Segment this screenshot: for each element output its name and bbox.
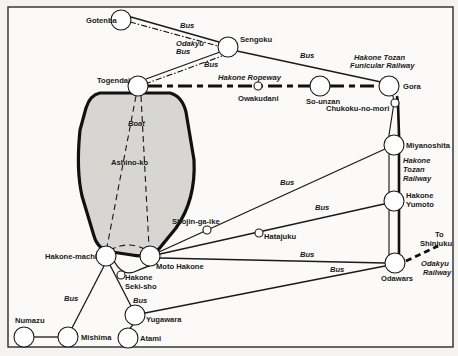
label-hakone-ropeway: Hakone Ropeway bbox=[218, 73, 282, 82]
station-miyanoshita[interactable] bbox=[384, 135, 404, 155]
station-shojin-ga-ike[interactable] bbox=[203, 226, 211, 234]
label-moto-hakone: Moto Hakone bbox=[156, 262, 204, 271]
label-odakyu-railway: OdakyuRailway bbox=[421, 259, 452, 277]
label-boat: Boat bbox=[128, 119, 145, 128]
station-hakone-seki-sho[interactable] bbox=[117, 271, 125, 279]
label-gora: Gora bbox=[403, 82, 422, 91]
station-mishima[interactable] bbox=[58, 327, 78, 347]
station-gora[interactable] bbox=[379, 76, 399, 96]
label-bus-miyanoshita: Bus bbox=[280, 178, 294, 187]
label-miyanoshita: Miyanoshita bbox=[406, 141, 451, 150]
station-togendai[interactable] bbox=[128, 76, 148, 96]
station-odawara[interactable] bbox=[385, 253, 405, 273]
label-bus-odawara-moto: Bus bbox=[300, 250, 314, 259]
hakone-transport-map: Gotenba Sengoku Togendai Owakudani So-un… bbox=[0, 0, 458, 356]
station-hakone-machi[interactable] bbox=[96, 246, 116, 266]
label-chukoku-no-mori: Chukoku-no-mori bbox=[326, 104, 389, 113]
label-shojin-ga-ike: Shojin-ga-ike bbox=[172, 217, 220, 226]
station-numazu[interactable] bbox=[14, 327, 34, 347]
label-atami: Atami bbox=[140, 334, 161, 343]
station-chukoku-no-mori[interactable] bbox=[391, 99, 399, 107]
station-hakone-yumoto[interactable] bbox=[384, 191, 404, 211]
station-atami[interactable] bbox=[118, 328, 138, 348]
label-bus-mishima: Bus bbox=[64, 294, 78, 303]
label-sengoku: Sengoku bbox=[240, 35, 272, 44]
label-bus-sengoku-gora: Bus bbox=[300, 51, 314, 60]
label-owakudani: Owakudani bbox=[238, 94, 279, 103]
station-owakudani[interactable] bbox=[254, 82, 262, 90]
label-hakone-yumoto: HakoneYumoto bbox=[406, 191, 434, 209]
label-bus-yumoto: Bus bbox=[315, 203, 329, 212]
station-yugawara[interactable] bbox=[125, 305, 145, 325]
label-mishima: Mishima bbox=[81, 333, 112, 342]
label-bus-togendai-sengoku: Bus bbox=[204, 60, 218, 69]
station-sengoku[interactable] bbox=[218, 37, 238, 57]
label-gotenba: Gotenba bbox=[86, 16, 118, 25]
label-hakone-seki-sho: HakoneSeki-sho bbox=[125, 273, 157, 291]
label-togendai: Togendai bbox=[97, 76, 130, 85]
label-numazu: Numazu bbox=[15, 316, 45, 325]
label-yugawara: Yugawara bbox=[146, 315, 182, 324]
label-bus-yugawara: Bus bbox=[133, 296, 147, 305]
station-hatajuku[interactable] bbox=[255, 229, 263, 237]
label-hatajuku: Hatajuku bbox=[264, 232, 296, 241]
label-hakone-machi: Hakone-machi bbox=[45, 252, 97, 261]
label-bus-odawara-yugawara: Bus bbox=[330, 265, 344, 274]
station-so-unzan[interactable] bbox=[310, 76, 330, 96]
label-odawara: Odawars bbox=[381, 274, 413, 283]
label-lake-ashino-ko: Ashino-ko bbox=[111, 158, 148, 167]
label-bus-gotenba-sengoku: Bus bbox=[180, 21, 194, 30]
